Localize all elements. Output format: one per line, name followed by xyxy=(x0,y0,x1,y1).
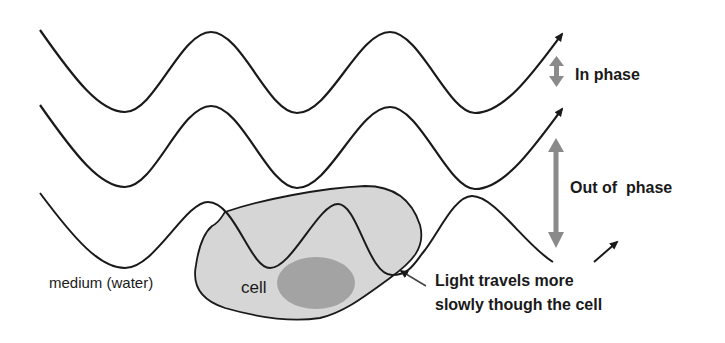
wave-middle xyxy=(40,105,562,189)
wave-top xyxy=(40,30,562,113)
in-phase-label: In phase xyxy=(575,66,640,84)
light-speed-note: Light travels more slowly though the cel… xyxy=(435,269,602,317)
diagram-canvas xyxy=(0,0,725,343)
wave-bottom-arrow xyxy=(594,242,617,262)
cell-label: cell xyxy=(241,278,267,298)
medium-label: medium (water) xyxy=(49,274,153,291)
nucleus xyxy=(277,257,355,309)
light-note-line1: Light travels more xyxy=(435,269,602,293)
label-pointer-line xyxy=(401,271,426,286)
light-note-line2: slowly though the cell xyxy=(435,293,602,317)
in-phase-arrow xyxy=(549,56,564,87)
out-of-phase-arrow xyxy=(548,138,564,248)
out-of-phase-label: Out of phase xyxy=(570,179,672,197)
phase-diagram: In phase Out of phase medium (water) cel… xyxy=(0,0,725,343)
